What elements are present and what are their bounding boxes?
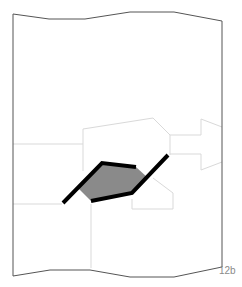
region-arrow-connector <box>170 119 222 135</box>
frame-bottom-edge <box>13 267 222 277</box>
frame-top-edge <box>13 12 222 21</box>
map-diagram <box>0 0 242 287</box>
region-upper-block <box>83 118 170 171</box>
figure-label: 12b <box>219 265 236 276</box>
region-arrow-lower <box>170 154 222 170</box>
